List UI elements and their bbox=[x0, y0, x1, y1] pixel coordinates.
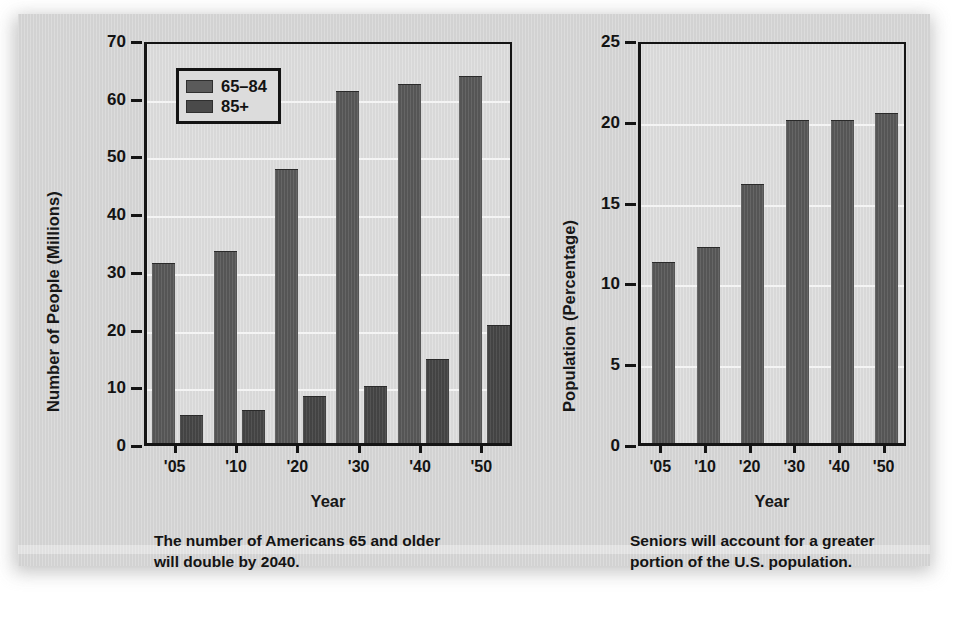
legend-left: 65–84 85+ bbox=[176, 68, 281, 124]
bar bbox=[303, 396, 326, 443]
bar bbox=[426, 359, 449, 443]
x-axis-tick-label: '50 bbox=[451, 458, 511, 476]
y-axis-tick bbox=[131, 387, 142, 390]
x-axis-tick bbox=[235, 446, 238, 453]
y-axis-tick-label: 70 bbox=[64, 32, 126, 52]
x-axis-tick bbox=[480, 446, 483, 453]
legend-label-65-84: 65–84 bbox=[221, 77, 267, 96]
plot-area-right bbox=[638, 42, 906, 446]
x-axis-tick bbox=[704, 446, 707, 453]
x-axis-tick bbox=[659, 446, 662, 453]
bar bbox=[697, 247, 720, 443]
x-axis-tick bbox=[174, 446, 177, 453]
y-axis-tick bbox=[625, 41, 636, 44]
y-axis-tick bbox=[131, 214, 142, 217]
y-axis-tick bbox=[131, 330, 142, 333]
chart-population-percentage: Population (Percentage) Year Seniors wil… bbox=[528, 14, 930, 566]
y-axis-tick bbox=[625, 364, 636, 367]
y-axis-tick bbox=[131, 99, 142, 102]
y-axis-tick-label: 0 bbox=[64, 436, 126, 456]
x-axis-tick bbox=[358, 446, 361, 453]
caption-right: Seniors will account for a greater porti… bbox=[630, 530, 930, 572]
x-axis-tick-label: '50 bbox=[854, 458, 914, 476]
x-axis-tick bbox=[793, 446, 796, 453]
bar bbox=[364, 386, 387, 443]
legend-label-85-plus: 85+ bbox=[221, 97, 249, 116]
y-axis-label-left: Number of People (Millions) bbox=[44, 191, 63, 412]
y-axis-tick bbox=[131, 156, 142, 159]
bar bbox=[741, 184, 764, 443]
figure-page: Number of People (Millions) Year 65–84 8… bbox=[0, 0, 980, 632]
bar bbox=[214, 251, 237, 443]
y-axis-tick-label: 10 bbox=[64, 378, 126, 398]
x-axis-tick bbox=[296, 446, 299, 453]
y-axis-tick bbox=[625, 203, 636, 206]
y-axis-tick bbox=[625, 445, 636, 448]
legend-item-65-84: 65–84 bbox=[186, 76, 267, 96]
x-axis-tick bbox=[419, 446, 422, 453]
y-axis-tick-label: 0 bbox=[558, 436, 620, 456]
x-axis-tick bbox=[749, 446, 752, 453]
gridline bbox=[147, 216, 510, 218]
bar bbox=[875, 113, 898, 443]
gridline bbox=[641, 124, 904, 126]
bar bbox=[152, 263, 175, 443]
y-axis-tick-label: 10 bbox=[558, 274, 620, 294]
bar bbox=[786, 120, 809, 443]
bar bbox=[487, 325, 510, 443]
y-axis-tick-label: 40 bbox=[64, 205, 126, 225]
gridline bbox=[147, 332, 510, 334]
x-axis-tick bbox=[883, 446, 886, 453]
x-axis-tick bbox=[838, 446, 841, 453]
x-axis-tick-label: '30 bbox=[329, 458, 389, 476]
x-axis-label-left: Year bbox=[144, 492, 512, 511]
chart-number-of-people: Number of People (Millions) Year 65–84 8… bbox=[18, 14, 528, 566]
y-axis-tick bbox=[625, 283, 636, 286]
y-axis-tick-label: 5 bbox=[558, 355, 620, 375]
legend-item-85-plus: 85+ bbox=[186, 96, 267, 116]
x-axis-label-right: Year bbox=[638, 492, 906, 511]
legend-swatch-65-84 bbox=[186, 80, 213, 93]
bar bbox=[242, 410, 265, 443]
y-axis-tick-label: 20 bbox=[64, 321, 126, 341]
x-axis-tick-label: '20 bbox=[267, 458, 327, 476]
gridline bbox=[147, 274, 510, 276]
y-axis-tick-label: 25 bbox=[558, 32, 620, 52]
y-axis-tick-label: 15 bbox=[558, 194, 620, 214]
gridline bbox=[147, 389, 510, 391]
bar bbox=[180, 415, 203, 443]
y-axis-tick bbox=[131, 272, 142, 275]
y-axis-tick-label: 50 bbox=[64, 147, 126, 167]
x-axis-tick-label: '40 bbox=[390, 458, 450, 476]
y-axis-tick-label: 60 bbox=[64, 90, 126, 110]
x-axis-tick-label: '10 bbox=[206, 458, 266, 476]
y-axis-tick bbox=[625, 122, 636, 125]
bar bbox=[336, 91, 359, 443]
charts-container: Number of People (Millions) Year 65–84 8… bbox=[18, 14, 930, 566]
y-axis-tick-label: 20 bbox=[558, 113, 620, 133]
bar bbox=[398, 84, 421, 443]
y-axis-tick bbox=[131, 41, 142, 44]
bar bbox=[459, 76, 482, 443]
figure-panel: Number of People (Millions) Year 65–84 8… bbox=[18, 14, 930, 566]
gridline bbox=[641, 366, 904, 368]
gridline bbox=[641, 285, 904, 287]
bar bbox=[831, 120, 854, 443]
bar bbox=[275, 169, 298, 443]
gridline bbox=[641, 205, 904, 207]
y-axis-label-right: Population (Percentage) bbox=[560, 220, 579, 412]
y-axis-tick bbox=[131, 445, 142, 448]
bar bbox=[652, 262, 675, 443]
legend-swatch-85-plus bbox=[186, 100, 213, 113]
x-axis-tick-label: '05 bbox=[145, 458, 205, 476]
gridline bbox=[147, 158, 510, 160]
caption-left: The number of Americans 65 and older wil… bbox=[154, 530, 514, 572]
y-axis-tick-label: 30 bbox=[64, 263, 126, 283]
